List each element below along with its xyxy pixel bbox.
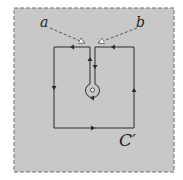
singular-point: [91, 88, 95, 92]
label-a: a: [40, 14, 48, 30]
label-contour: C′: [119, 130, 136, 150]
keyhole-contour-diagram: [0, 0, 183, 180]
label-b: b: [136, 14, 145, 30]
